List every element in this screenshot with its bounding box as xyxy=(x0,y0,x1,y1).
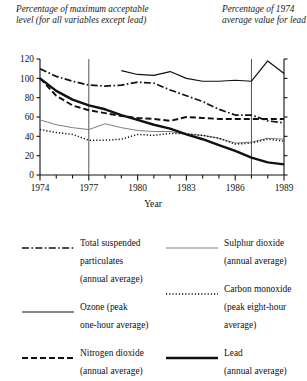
x-tick-label: 1983 xyxy=(177,183,196,193)
caption-left: Percentage of maximum acceptable level (… xyxy=(16,4,166,27)
legend-swatch-dash-dot xyxy=(22,237,74,243)
y-tick-label: 120 xyxy=(20,54,34,64)
legend-swatch-dashed xyxy=(22,347,74,353)
legend-item-label: Lead (annual average) xyxy=(224,348,287,376)
legend-line-swatch xyxy=(22,355,74,361)
legend-item-label: Total suspended particulates (annual ave… xyxy=(80,238,143,284)
y-tick-label: 40 xyxy=(25,132,35,142)
legend-line-swatch xyxy=(166,291,218,297)
legend-item[interactable]: Ozone (peak one-hour average) xyxy=(22,296,162,332)
caption-right: Percentage of 1974 average value for lea… xyxy=(222,4,306,27)
legend-line-swatch xyxy=(166,355,218,361)
legend-item[interactable]: Total suspended particulates (annual ave… xyxy=(22,232,162,286)
legend-item-label: Carbon monoxide (peak eight-hour average… xyxy=(224,284,291,330)
legend-item-label: Ozone (peak one-hour average) xyxy=(80,302,148,330)
legend-swatch-thin-solid-dark xyxy=(22,301,74,307)
series-line xyxy=(121,61,284,81)
legend-column-left: Total suspended particulates (annual ave… xyxy=(22,232,162,381)
series-line xyxy=(40,69,284,123)
legend-item[interactable]: Nitrogen dioxide (annual average) xyxy=(22,342,162,378)
series-line xyxy=(40,120,284,143)
legend-swatch-dotted xyxy=(166,283,218,289)
legend-item[interactable]: Lead (annual average) xyxy=(166,342,306,378)
x-tick-label: 1977 xyxy=(79,183,98,193)
legend-swatch-thin-solid-light xyxy=(166,237,218,243)
chart-container: 020406080100120197419771980198319861989 xyxy=(0,50,306,210)
line-chart: 020406080100120197419771980198319861989 xyxy=(0,50,306,210)
series-line xyxy=(40,78,284,164)
y-tick-label: 100 xyxy=(20,74,34,84)
legend-item[interactable]: Sulphur dioxide (annual average) xyxy=(166,232,306,268)
y-tick-label: 80 xyxy=(25,93,35,103)
legend-item-label: Nitrogen dioxide (annual average) xyxy=(80,348,144,376)
y-tick-label: 60 xyxy=(25,112,35,122)
x-tick-label: 1986 xyxy=(226,183,245,193)
caption-row: Percentage of maximum acceptable level (… xyxy=(0,0,306,52)
x-tick-label: 1989 xyxy=(275,183,294,193)
legend-line-swatch xyxy=(22,309,74,315)
legend-column-right: Sulphur dioxide (annual average)Carbon m… xyxy=(166,232,306,381)
legend-line-swatch xyxy=(166,245,218,251)
x-axis-title: Year xyxy=(0,198,306,209)
legend-swatch-thick-solid xyxy=(166,347,218,353)
chart-legend: Total suspended particulates (annual ave… xyxy=(0,232,306,360)
x-tick-label: 1980 xyxy=(128,183,147,193)
legend-item[interactable]: Carbon monoxide (peak eight-hour average… xyxy=(166,278,306,332)
legend-line-swatch xyxy=(22,245,74,251)
y-tick-label: 20 xyxy=(25,151,35,161)
x-tick-label: 1974 xyxy=(31,183,50,193)
legend-item-label: Sulphur dioxide (annual average) xyxy=(224,238,287,266)
y-tick-label: 0 xyxy=(29,170,34,180)
